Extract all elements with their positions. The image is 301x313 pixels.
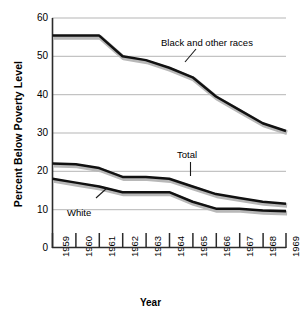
- series-line-0: [53, 36, 287, 131]
- series-label-white: White: [67, 208, 91, 218]
- leader-line-black-and-other-races: [185, 49, 196, 62]
- data-series-layer: [53, 36, 288, 214]
- plot-area: [0, 0, 301, 313]
- series-label-black-and-other-races: Black and other races: [161, 38, 253, 48]
- series-label-total: Total: [177, 150, 197, 160]
- x-axis-ticks: [53, 233, 287, 248]
- poverty-level-line-chart: Percent Below Poverty Level Year 60 50 4…: [0, 0, 301, 313]
